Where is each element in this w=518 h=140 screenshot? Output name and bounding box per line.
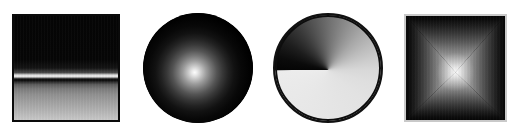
- radial-sphere-fill: [143, 13, 253, 123]
- panel-conic-angular-sweep: [273, 13, 383, 123]
- linear-ramp-banding-texture: [14, 16, 118, 120]
- panel-linear-vertical-ramp: [12, 14, 120, 122]
- conic-outline-ring: [275, 15, 381, 121]
- panel-box-pyramid-gradient: [404, 14, 507, 122]
- gradient-figure: [0, 0, 518, 140]
- panel-radial-sphere: [143, 13, 253, 123]
